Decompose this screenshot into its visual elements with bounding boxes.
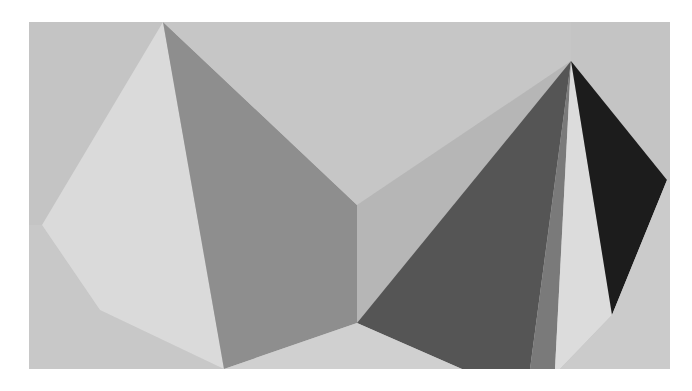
pyramid-artwork (0, 0, 692, 391)
